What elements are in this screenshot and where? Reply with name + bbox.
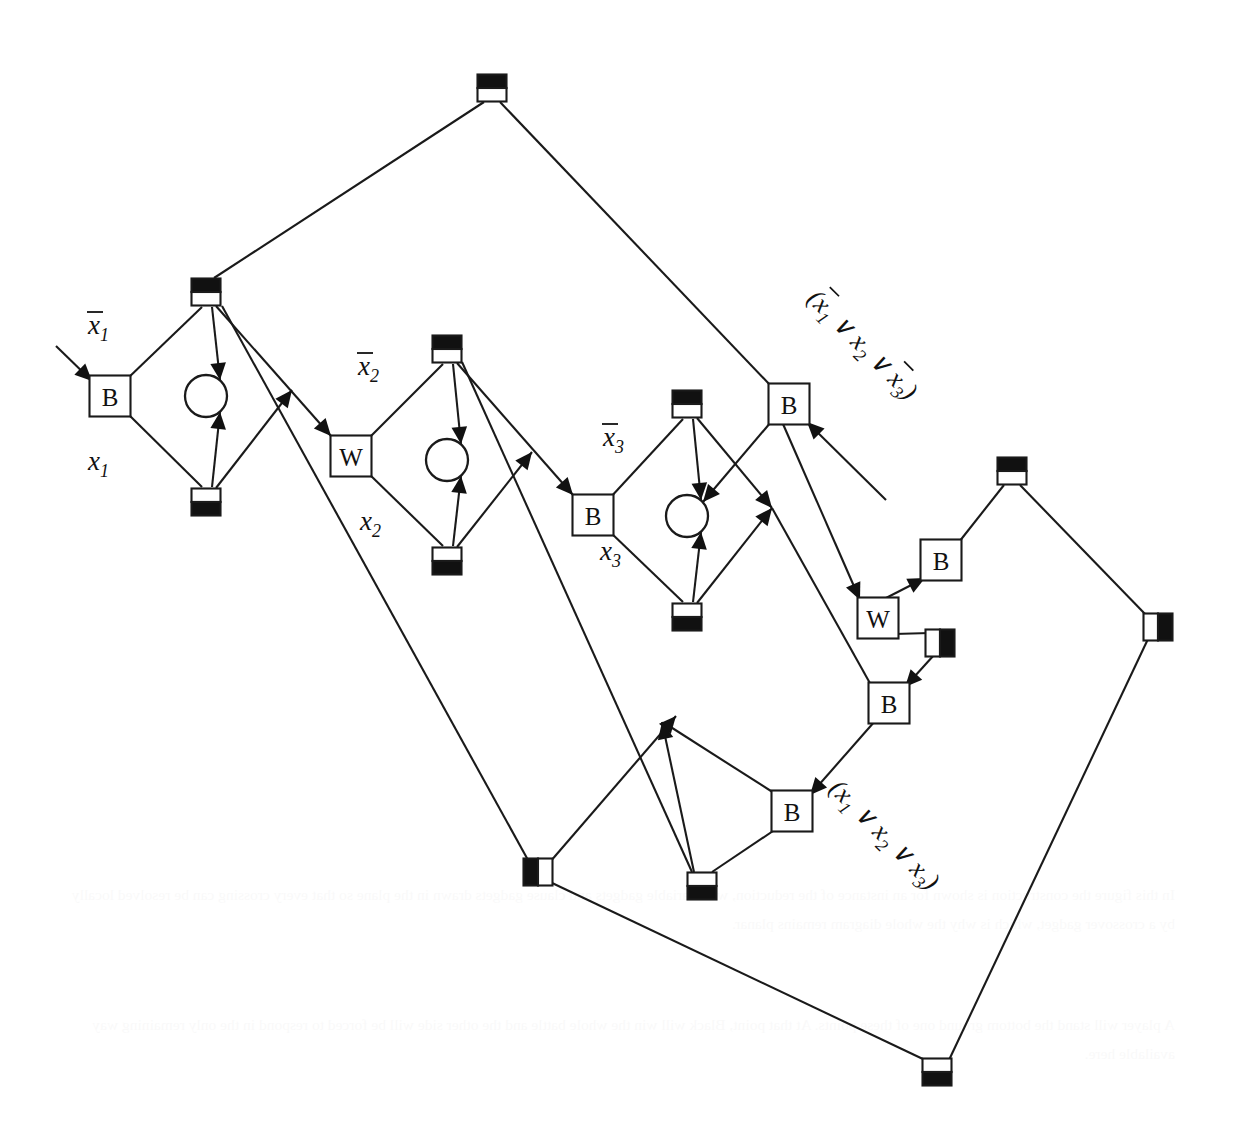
split-node-node-x3-lower — [673, 604, 702, 631]
variable-label-not-x3: x3 — [602, 422, 624, 457]
node-half-bottom — [478, 88, 507, 102]
gate-letter: B — [102, 384, 119, 411]
node-half-top — [998, 458, 1027, 472]
gate-letter: B — [784, 799, 801, 826]
node-half-top — [478, 75, 507, 89]
variable-label-text: x1 — [87, 310, 109, 345]
variable-label-text: x3 — [599, 536, 621, 571]
edge-x3upper-junction-head — [755, 490, 772, 508]
node-half-right — [940, 630, 955, 657]
edge-b2-to-x3upper — [609, 419, 683, 499]
node-half-bottom — [433, 349, 462, 363]
clause-label-clause-2: (x1 ∨ x2 ∨ x3) — [820, 774, 945, 899]
split-node-node-x2-lower — [433, 548, 462, 575]
node-half-bottom — [673, 617, 702, 631]
split-node-node-bottom — [923, 1059, 952, 1086]
circle-node-circle-3 — [666, 495, 708, 537]
circle-node-circle-1 — [185, 375, 227, 417]
gate-gate-b-1: B — [90, 376, 131, 417]
split-node-node-x2-upper — [433, 336, 462, 363]
edge-b3-w2-shaft — [783, 424, 860, 600]
gate-gate-b-2: B — [573, 495, 614, 536]
variable-label-not-x2: x2 — [357, 351, 379, 386]
gate-letter: W — [866, 606, 890, 633]
edge-b6-upleft — [666, 724, 774, 793]
edge-rightfar-bottom — [949, 639, 1148, 1060]
variable-label-text: x2 — [357, 351, 379, 386]
variable-label-x3: x3 — [599, 536, 621, 571]
edge-top-b3 — [500, 102, 771, 386]
node-half-top — [192, 279, 221, 293]
split-node-node-x1-lower — [192, 489, 221, 516]
node-half-bottom — [923, 1072, 952, 1086]
clause-label-text: (x1 ∨ x2 ∨ x3) — [798, 284, 923, 409]
split-node-node-bottom-left — [524, 859, 553, 886]
gate-gate-b-4: B — [921, 540, 962, 581]
variable-label-text: x3 — [602, 422, 624, 457]
gate-letter: B — [781, 392, 798, 419]
gate-letter: W — [339, 444, 363, 471]
edge-x2lower-junction-shaft — [457, 452, 532, 547]
node-half-top — [673, 391, 702, 405]
split-node-node-top — [478, 75, 507, 102]
gadget-graph: BWBBBWBB x1x1x2x2x3x3(x1 ∨ x2 ∨ x3)(x1 ∨… — [0, 0, 1235, 1139]
gate-letter: B — [585, 503, 602, 530]
edge-bottomleft-bottom — [550, 882, 925, 1060]
node-half-top — [923, 1059, 952, 1073]
edge-b1-to-x1lower — [126, 412, 202, 487]
edge-x1upper-bottomleft — [222, 306, 528, 860]
edge-x1lower-junction-shaft — [216, 390, 292, 488]
node-half-top — [673, 604, 702, 618]
clause-label-clause-1: (x1 ∨ x2 ∨ x3) — [798, 282, 925, 409]
gate-layer: BWBBBWBB — [90, 376, 962, 832]
gate-gate-w-1: W — [331, 436, 372, 477]
edge-layer — [56, 102, 1148, 1060]
variable-label-x2: x2 — [359, 506, 381, 541]
node-layer — [192, 75, 1173, 1086]
node-half-bottom — [998, 471, 1027, 485]
gate-gate-b-3: B — [769, 384, 810, 425]
split-node-node-right-far — [1144, 614, 1173, 641]
edge-top-x1upper — [214, 102, 484, 278]
clause-label-text: (x1 ∨ x2 ∨ x3) — [820, 774, 945, 899]
edge-rightupper-rightfar — [1020, 485, 1146, 615]
node-half-bottom — [688, 886, 717, 900]
node-half-top — [688, 873, 717, 887]
node-half-left — [926, 630, 941, 657]
edge-bottommid-up-shaft — [662, 722, 694, 872]
node-half-bottom — [192, 292, 221, 306]
label-layer: x1x1x2x2x3x3(x1 ∨ x2 ∨ x3)(x1 ∨ x2 ∨ x3) — [87, 282, 945, 899]
variable-label-text: x2 — [359, 506, 381, 541]
gate-letter: B — [933, 548, 950, 575]
split-node-node-bottom-mid — [688, 873, 717, 900]
circle-node-circle-2 — [426, 439, 468, 481]
node-half-right — [1158, 614, 1173, 641]
edge-b1-to-x1upper — [126, 307, 202, 380]
edge-bottomleft-up-shaft — [550, 716, 676, 862]
node-half-bottom — [192, 502, 221, 516]
node-half-left — [524, 859, 539, 886]
gate-letter: B — [881, 691, 898, 718]
gate-gate-b-5: B — [869, 683, 910, 724]
split-node-node-mid-right — [926, 630, 955, 657]
variable-label-text: x1 — [87, 446, 109, 481]
edge-x3lower-junction-shaft — [697, 508, 772, 603]
edge-x2-bottommid — [462, 362, 692, 872]
split-node-node-x1-upper — [192, 279, 221, 306]
node-half-bottom — [673, 404, 702, 418]
gate-gate-w-2: W — [858, 598, 899, 639]
split-node-node-right-upper — [998, 458, 1027, 485]
node-half-bottom — [433, 561, 462, 575]
node-half-top — [433, 336, 462, 350]
edge-rightupper-b4 — [959, 485, 1004, 542]
circle-layer — [185, 375, 708, 537]
node-half-top — [192, 489, 221, 503]
node-half-left — [1144, 614, 1159, 641]
edge-x2lower-junction-head — [515, 452, 532, 470]
node-half-right — [538, 859, 553, 886]
node-half-top — [433, 548, 462, 562]
variable-label-x1: x1 — [87, 446, 109, 481]
arrowhead-layer — [74, 362, 925, 795]
edge-x3lower-junction-head — [755, 508, 772, 526]
split-node-node-x3-upper — [673, 391, 702, 418]
